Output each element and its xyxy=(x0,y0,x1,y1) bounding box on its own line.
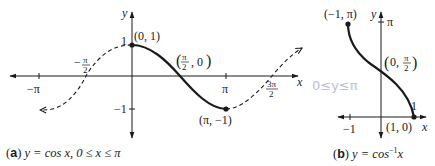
svg-text:): ) xyxy=(412,54,417,72)
panel-b-graph: (−1, π) y π 1 −1 (1, 0) x ( 0, π 2 ) xyxy=(324,7,428,138)
figure-canvas: y (0, 1) 1 −1 −π π x (π, −1) − π 2 ( π 2… xyxy=(0,0,435,166)
label-tick-neg-1: −1 xyxy=(114,102,127,116)
handwritten-note: 0≤y≤π xyxy=(312,78,358,93)
svg-text:, 0: , 0 xyxy=(191,55,203,69)
panel-b-y-label: y xyxy=(370,7,377,21)
caption-b-text: y = cos xyxy=(352,147,389,161)
label-point-1-0: (1, 0) xyxy=(386,120,412,134)
panel-a-x-label: x xyxy=(296,75,303,89)
panel-a-dashed-right xyxy=(226,48,302,109)
point-neg1-pi xyxy=(345,21,350,26)
svg-text:(: ( xyxy=(384,54,389,72)
label-tick-b-pi: π xyxy=(387,15,393,29)
svg-text:2: 2 xyxy=(404,63,409,73)
label-point-pi-over-2-0: ( π 2 , 0 ) xyxy=(176,52,211,72)
label-tick-b-1: 1 xyxy=(411,99,417,113)
svg-text:): ) xyxy=(206,52,211,70)
caption-a-letter: a xyxy=(10,146,17,160)
caption-b-var: x xyxy=(398,147,404,161)
label-point-pi-neg1: (π, −1) xyxy=(199,113,232,127)
caption-b-letter: b xyxy=(337,147,345,161)
svg-text:3π: 3π xyxy=(267,79,277,89)
svg-text:2: 2 xyxy=(269,89,274,99)
point-0-1 xyxy=(129,42,134,47)
caption-b-sup: −1 xyxy=(389,146,398,155)
svg-text:π: π xyxy=(83,55,88,65)
svg-text:2: 2 xyxy=(182,62,187,72)
label-tick-1: 1 xyxy=(121,34,127,48)
label-tick-pi: π xyxy=(222,82,228,96)
svg-text:(: ( xyxy=(176,52,181,70)
svg-text:−: − xyxy=(74,55,81,69)
label-point-0-pi-over-2: ( 0, π 2 ) xyxy=(384,53,417,73)
point-1-0 xyxy=(411,114,416,119)
label-tick-neg-pi: −π xyxy=(27,82,40,96)
panel-a-graph: y (0, 1) 1 −1 −π π x (π, −1) − π 2 ( π 2… xyxy=(10,6,303,138)
panel-b-x-label: x xyxy=(421,120,428,134)
label-tick-3pi-over-2: 3π 2 xyxy=(266,79,278,99)
svg-text:π: π xyxy=(182,52,187,62)
svg-text:π: π xyxy=(404,53,409,63)
label-point-0-1: (0, 1) xyxy=(134,29,160,43)
label-tick-b-neg-1: −1 xyxy=(343,122,356,136)
svg-text:0,: 0, xyxy=(390,55,399,69)
panel-a-y-label: y xyxy=(121,6,128,20)
label-tick-neg-pi-over-2: − π 2 xyxy=(74,55,90,75)
caption-a-text: y = cos x, 0 ≤ x ≤ π xyxy=(24,146,120,160)
caption-b: (b) y = cos−1x xyxy=(333,146,403,162)
caption-a: (a) y = cos x, 0 ≤ x ≤ π xyxy=(6,146,121,161)
label-point-neg1-pi: (−1, π) xyxy=(324,7,357,21)
svg-text:2: 2 xyxy=(83,65,88,75)
point-pi-neg1 xyxy=(223,106,228,111)
